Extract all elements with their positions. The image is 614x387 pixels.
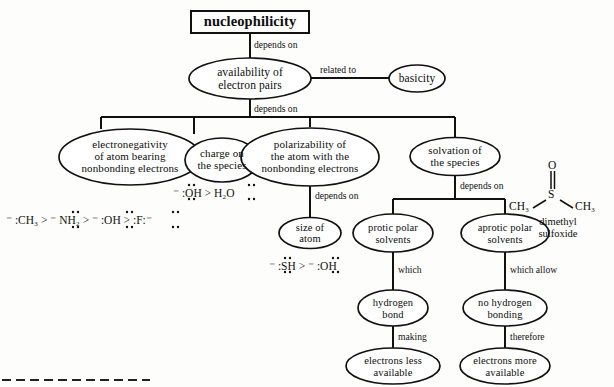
node-label: availability ofelectron pairs xyxy=(217,66,283,91)
dmso-atom-oxygen: O xyxy=(548,159,556,171)
node-hydrogen-bond[interactable]: hydrogenbond xyxy=(358,291,428,326)
dmso-name-line1: dimethyl xyxy=(512,216,604,228)
dmso-group-right: CH₃ xyxy=(575,200,595,212)
edge-label-depends-on-3: depends on xyxy=(315,190,358,201)
edge-label-depends-on-1: depends on xyxy=(254,39,297,50)
edge-label-depends-on-4: depends on xyxy=(460,180,503,191)
node-label: protic polarsolvents xyxy=(368,222,418,245)
node-nucleophilicity[interactable]: nucleophilicity xyxy=(190,10,310,34)
node-solvation[interactable]: solvation ofthe species xyxy=(410,138,500,175)
node-label: polarizability ofthe atom with thenonbon… xyxy=(261,139,358,175)
node-label: solvation ofthe species xyxy=(428,145,481,169)
node-electrons-less-available[interactable]: electrons lessavailable xyxy=(346,349,440,384)
node-protic-polar-solvents[interactable]: protic polarsolvents xyxy=(353,215,433,252)
node-label: hydrogenbond xyxy=(373,297,413,320)
node-basicity[interactable]: basicity xyxy=(389,65,445,92)
edge-label-therefore: therefore xyxy=(510,331,545,342)
node-polarizability[interactable]: polarizability ofthe atom with thenonbon… xyxy=(241,128,379,186)
node-label: charge onthe species xyxy=(197,148,246,172)
node-electrons-more-available[interactable]: electrons moreavailable xyxy=(460,349,550,384)
edge-label-related-to: related to xyxy=(320,64,356,75)
node-label: size ofatom xyxy=(296,222,324,245)
chem-series-charge: ⁻ :OH > H₂O xyxy=(173,186,235,200)
edge-label-which: which xyxy=(398,264,421,275)
node-no-hydrogen-bonding[interactable]: no hydrogenbonding xyxy=(463,291,547,326)
edge-label-depends-on-2: depends on xyxy=(254,103,297,114)
node-label: nucleophilicity xyxy=(204,14,297,30)
dmso-group-left: CH₃ xyxy=(509,200,529,212)
node-availability[interactable]: availability ofelectron pairs xyxy=(189,58,311,99)
node-label: no hydrogenbonding xyxy=(478,297,532,320)
edge-label-making: making xyxy=(398,331,427,342)
node-label: electrons lessavailable xyxy=(364,355,422,378)
dmso-atom-sulfur: S xyxy=(548,188,554,200)
node-label: basicity xyxy=(399,72,436,84)
node-label: electrons moreavailable xyxy=(473,355,537,378)
node-label: electronegativityof atom bearingnonbondi… xyxy=(81,139,178,175)
chem-series-nucleophilicity: ⁻ :CH₃ > ⁻ NH₂ > ⁻ :OH > :F:⁻ xyxy=(6,213,152,227)
node-electronegativity[interactable]: electronegativityof atom bearingnonbondi… xyxy=(59,129,201,185)
node-size-of-atom[interactable]: size ofatom xyxy=(279,218,341,248)
chem-series-size: ⁻ :SH > ⁻ :OH xyxy=(269,259,337,273)
edge-label-which-allow: which allow xyxy=(510,264,557,275)
dmso-name-line2: sulfoxide xyxy=(512,228,604,240)
diagram-canvas: nucleophilicity availability ofelectron … xyxy=(0,0,614,387)
